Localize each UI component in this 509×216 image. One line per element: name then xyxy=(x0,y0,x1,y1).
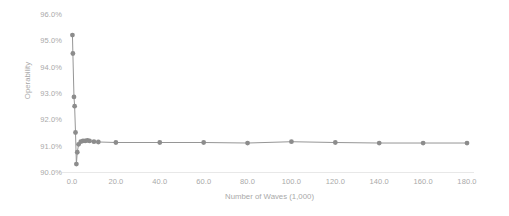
series-operability xyxy=(72,14,467,172)
data-point xyxy=(377,141,382,146)
data-point xyxy=(87,139,92,144)
data-point xyxy=(73,130,78,135)
y-axis-title: Operability xyxy=(23,36,32,126)
y-tick-label: 96.0% xyxy=(18,10,62,19)
x-axis-title: Number of Waves (1,000) xyxy=(72,192,467,201)
data-point xyxy=(201,140,206,145)
data-point xyxy=(245,141,250,146)
series-line xyxy=(72,35,467,164)
data-point xyxy=(157,140,162,145)
x-tick-label: 180.0 xyxy=(442,177,492,186)
x-tick-label: 80.0 xyxy=(223,177,273,186)
data-point xyxy=(70,51,75,56)
x-tick-label: 100.0 xyxy=(266,177,316,186)
x-tick-label: 60.0 xyxy=(179,177,229,186)
x-tick-label: 160.0 xyxy=(398,177,448,186)
series-markers xyxy=(70,33,469,167)
data-point xyxy=(113,140,118,145)
y-tick-label: 95.0% xyxy=(18,36,62,45)
data-point xyxy=(92,139,97,144)
x-tick-label: 20.0 xyxy=(91,177,141,186)
data-point xyxy=(421,141,426,146)
x-tick-label: 0.0 xyxy=(47,177,97,186)
x-tick-label: 120.0 xyxy=(310,177,360,186)
x-axis-line xyxy=(62,172,474,173)
y-tick-label: 90.0% xyxy=(18,168,62,177)
y-tick-label: 93.0% xyxy=(18,89,62,98)
data-point xyxy=(72,95,77,100)
data-point xyxy=(70,33,75,38)
data-point xyxy=(75,150,80,155)
data-point xyxy=(333,140,338,145)
line-chart: Operability 90.0%91.0%92.0%93.0%94.0%95.… xyxy=(0,0,509,216)
data-point xyxy=(465,141,470,146)
data-point xyxy=(96,140,101,145)
data-point xyxy=(289,139,294,144)
y-tick-label: 91.0% xyxy=(18,141,62,150)
plot-area xyxy=(72,14,467,172)
x-tick-label: 140.0 xyxy=(354,177,404,186)
y-tick-label: 92.0% xyxy=(18,115,62,124)
data-point xyxy=(72,104,77,109)
x-tick-label: 40.0 xyxy=(135,177,185,186)
data-point xyxy=(74,162,79,167)
y-tick-label: 94.0% xyxy=(18,62,62,71)
